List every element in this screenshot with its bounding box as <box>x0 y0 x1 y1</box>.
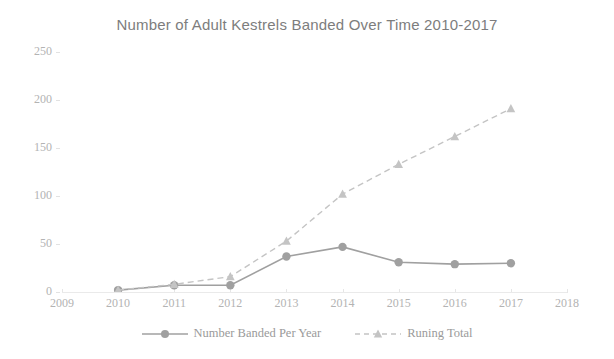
y-tick-mark <box>56 244 60 245</box>
data-point-marker <box>226 281 234 289</box>
data-point-marker <box>394 160 403 168</box>
data-point-marker <box>451 260 459 268</box>
legend-label: Number Banded Per Year <box>194 326 322 341</box>
x-tick-label-2015: 2015 <box>371 296 427 311</box>
y-tick-label-100: 100 <box>8 188 52 203</box>
y-tick-label-150: 150 <box>8 140 52 155</box>
legend-entry-2[interactable]: Runing Total <box>355 326 472 341</box>
y-tick-mark <box>56 292 60 293</box>
y-tick-mark <box>56 196 60 197</box>
data-point-marker <box>338 243 346 251</box>
y-tick-mark <box>56 148 60 149</box>
y-tick-label-50: 50 <box>8 236 52 251</box>
x-tick-label-2011: 2011 <box>146 296 202 311</box>
data-point-marker <box>226 272 235 280</box>
y-tick-label-200: 200 <box>8 92 52 107</box>
x-tick-label-2018: 2018 <box>539 296 595 311</box>
data-point-marker <box>394 258 402 266</box>
x-tick-mark <box>567 289 568 293</box>
plot-area <box>62 52 567 292</box>
x-tick-label-2013: 2013 <box>258 296 314 311</box>
y-tick-mark <box>56 100 60 101</box>
legend-label: Runing Total <box>407 326 472 341</box>
data-point-marker <box>338 189 347 197</box>
x-tick-label-2012: 2012 <box>202 296 258 311</box>
plot-svg <box>62 52 567 292</box>
x-axis-line <box>62 292 567 293</box>
y-tick-label-250: 250 <box>8 44 52 59</box>
data-point-marker <box>507 104 516 112</box>
data-point-marker <box>507 259 515 267</box>
y-tick-mark <box>56 52 60 53</box>
x-tick-label-2017: 2017 <box>483 296 539 311</box>
data-point-marker <box>282 252 290 260</box>
chart-figure: Number of Adult Kestrels Banded Over Tim… <box>0 0 614 359</box>
x-tick-label-2009: 2009 <box>34 296 90 311</box>
triangle-marker-icon <box>355 329 401 339</box>
x-tick-label-2016: 2016 <box>427 296 483 311</box>
legend-entry-1[interactable]: Number Banded Per Year <box>142 326 322 341</box>
chart-legend: Number Banded Per YearRuning Total <box>0 326 614 341</box>
circle-marker-icon <box>142 329 188 339</box>
data-point-marker <box>450 132 459 140</box>
x-tick-label-2014: 2014 <box>315 296 371 311</box>
chart-title: Number of Adult Kestrels Banded Over Tim… <box>0 16 614 33</box>
x-tick-label-2010: 2010 <box>90 296 146 311</box>
